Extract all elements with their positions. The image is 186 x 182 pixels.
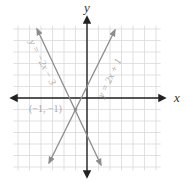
y-axis-label: y bbox=[84, 1, 90, 14]
line-y-neg2x-minus3 bbox=[37, 29, 101, 165]
coordinate-plane bbox=[0, 0, 186, 182]
x-axis-label: x bbox=[174, 91, 180, 104]
intersection-label: (−1, −1) bbox=[29, 104, 62, 114]
intersection-point bbox=[74, 108, 78, 112]
